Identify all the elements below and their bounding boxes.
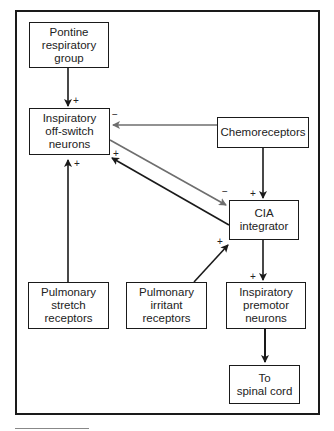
sign-cia-offswitch: + <box>113 149 119 159</box>
sign-stretch-offswitch: + <box>74 159 80 169</box>
node-pulmonary-stretch-receptors: Pulmonarystretchreceptors <box>28 282 109 329</box>
node-chemoreceptors: Chemoreceptors <box>217 117 309 148</box>
footnote-rule <box>15 428 89 429</box>
node-cia-integrator: CIAintegrator <box>229 200 299 240</box>
node-inspiratory-off-switch: Inspiratoryoff-switchneurons <box>29 108 110 155</box>
sign-pontine-offswitch: + <box>73 96 79 106</box>
sign-offswitch-cia: − <box>222 187 228 197</box>
node-pontine-respiratory-group: Pontinerespiratorygroup <box>29 22 109 68</box>
arrow-irritant-cia <box>194 245 228 282</box>
node-inspiratory-premotor: Inspiratorypremotorneurons <box>226 282 306 329</box>
sign-chemo-cia: + <box>250 189 256 199</box>
arrow-cia-offswitch <box>112 158 229 225</box>
sign-cia-premotor: + <box>250 272 256 282</box>
node-pulmonary-irritant-receptors: Pulmonaryirritantreceptors <box>126 282 207 329</box>
arrow-offswitch-cia <box>110 140 226 205</box>
sign-chemo-offswitch: − <box>112 110 118 120</box>
sign-irritant-cia: + <box>217 237 223 247</box>
node-to-spinal-cord: Tospinal cord <box>229 365 300 404</box>
